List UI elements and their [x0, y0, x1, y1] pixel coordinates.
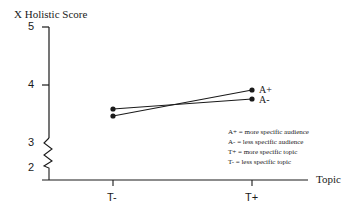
x-tick-t-minus: T-	[107, 192, 117, 203]
point-a-plus-t-plus	[249, 87, 254, 92]
series-a-plus-line	[113, 90, 252, 116]
legend: A+ = more specific audience A- = less sp…	[228, 127, 309, 167]
y-axis-title: X Holistic Score	[14, 9, 87, 20]
x-axis-title: Topic	[316, 174, 341, 185]
axis-break-icon	[44, 138, 52, 180]
y-tick-4: 4	[28, 79, 34, 90]
y-tick-3: 3	[28, 137, 34, 148]
x-tick-t-plus: T+	[245, 192, 258, 203]
legend-item: A+ = more specific audience	[228, 127, 309, 137]
y-tick-2: 2	[28, 162, 34, 173]
point-a-minus-t-plus	[249, 96, 254, 101]
y-tick-5: 5	[28, 21, 34, 32]
point-a-plus-t-minus	[110, 113, 115, 118]
legend-item: T- = less specific topic	[228, 157, 309, 167]
legend-item: T+ = more specific topic	[228, 147, 309, 157]
series-a-minus-line	[113, 99, 252, 109]
series-label-a-minus: A-	[259, 95, 270, 105]
chart-canvas	[0, 0, 358, 219]
legend-item: A- = less specific audience	[228, 137, 309, 147]
point-a-minus-t-minus	[110, 106, 115, 111]
